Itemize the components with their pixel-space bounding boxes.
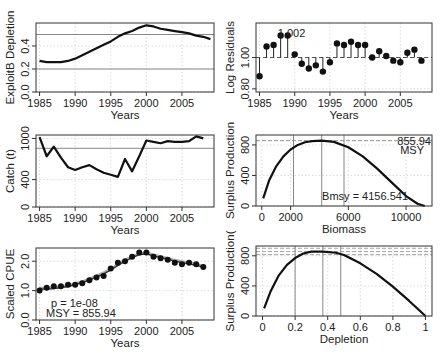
y-axis-label: Catch (t): [4, 149, 16, 193]
cpue-point: [172, 260, 178, 266]
y-tick-label: 800: [239, 247, 251, 265]
chart-canvas: 198519901995200020050.00.20.4YearsExploi…: [0, 0, 441, 355]
cpue-point: [51, 283, 57, 289]
x-tick-label: 1990: [63, 325, 87, 337]
residual-point: [362, 42, 368, 48]
x-tick-label: 1990: [63, 212, 87, 224]
plot-frame: [36, 135, 214, 207]
cpue-point: [94, 274, 100, 280]
x-tick-label: 2000: [353, 97, 377, 109]
cpue-point: [37, 288, 43, 294]
residual-point: [369, 54, 375, 60]
residual-point: [376, 48, 382, 54]
x-tick-label: 2005: [170, 97, 194, 109]
residual-point: [256, 73, 262, 79]
svg-text:Bmsy = 4156.541: Bmsy = 4156.541: [322, 190, 408, 202]
cpue-point: [86, 277, 92, 283]
surplus-vs-depletion-panel: 00.20.40.60.810400800DepletionSurplus Pr…: [224, 230, 432, 345]
y-axis-label: Log Residuals: [224, 21, 236, 94]
cpue-point: [44, 285, 50, 291]
x-tick-label: 0.4: [320, 321, 335, 333]
x-tick-label: 1995: [99, 212, 123, 224]
cpue-point: [129, 254, 135, 260]
x-tick-label: 0.6: [353, 321, 368, 333]
x-tick-label: 2000: [134, 212, 158, 224]
cpue-point: [200, 264, 206, 270]
x-axis-label: Depletion: [320, 333, 369, 345]
residual-point: [263, 43, 269, 49]
residual-point: [306, 65, 312, 71]
residual-point: [313, 62, 319, 68]
x-axis-label: Biomass: [322, 223, 366, 235]
y-tick-label: 2.0: [19, 254, 31, 269]
x-tick-label: 2000: [134, 97, 158, 109]
x-tick-label: 1990: [63, 97, 87, 109]
y-axis-label: Surplus Production(: [224, 230, 236, 331]
log-residuals-panel: 198519901995200020050.801.00YearsLog Res…: [224, 21, 432, 121]
cpue-point: [186, 260, 192, 266]
cpue-point: [65, 282, 71, 288]
x-tick-label: 2005: [170, 212, 194, 224]
cpue-point: [101, 273, 107, 279]
scaled-cpue-panel: 198519901995200020050.01.02.0YearsScaled…: [4, 248, 214, 349]
residual-point: [383, 53, 389, 59]
residual-point: [327, 59, 333, 65]
y-tick-label: 0: [19, 204, 31, 210]
cpue-point: [193, 261, 199, 267]
residual-point: [270, 42, 276, 48]
x-tick-label: 1995: [318, 97, 342, 109]
surplus-vs-biomass-panel: 020006000100000400800BiomassSurplus Prod…: [224, 122, 432, 235]
cpue-point: [143, 249, 149, 255]
data-line: [40, 136, 204, 176]
cpue-point: [122, 258, 128, 264]
residual-point: [397, 59, 403, 65]
data-line: [264, 252, 425, 316]
residual-point: [404, 50, 410, 56]
y-tick-label: 1.0: [19, 283, 31, 298]
plot-frame: [256, 246, 432, 316]
y-tick-label: 1000: [19, 126, 31, 150]
x-tick-label: 1995: [99, 325, 123, 337]
x-tick-label: 0.2: [287, 321, 302, 333]
y-tick-label: 0.4: [19, 38, 31, 53]
x-axis-label: Years: [330, 109, 359, 121]
y-tick-label: 0.0: [19, 312, 31, 327]
cpue-point: [150, 254, 156, 260]
x-tick-label: 2000: [278, 211, 302, 223]
cpue-point: [115, 260, 121, 266]
exploitable-depletion-panel: 198519901995200020050.00.20.4YearsExploi…: [4, 11, 214, 121]
x-tick-label: 0: [259, 211, 265, 223]
y-tick-label: 1.00: [239, 47, 251, 68]
x-tick-label: 6000: [336, 211, 360, 223]
residual-point: [390, 57, 396, 63]
y-tick-label: 0.0: [19, 84, 31, 99]
x-tick-label: 0.8: [385, 321, 400, 333]
y-axis-label: Surplus Production: [224, 122, 236, 219]
cpue-point: [136, 249, 142, 255]
data-line: [40, 25, 211, 62]
x-axis-label: Years: [111, 224, 140, 236]
y-tick-label: 0.80: [239, 78, 251, 99]
x-tick-label: 0: [259, 321, 265, 333]
residual-point: [348, 39, 354, 45]
cpue-point: [165, 257, 171, 263]
x-axis-label: Years: [111, 337, 140, 349]
svg-text:MSY: MSY: [400, 144, 425, 156]
residual-point: [355, 42, 361, 48]
x-tick-label: 2005: [388, 97, 412, 109]
x-axis-label: Years: [111, 109, 140, 121]
residual-point: [320, 68, 326, 74]
x-tick-label: 1990: [282, 97, 306, 109]
cpue-point: [79, 280, 85, 286]
x-tick-label: 1985: [27, 212, 51, 224]
residual-point: [334, 40, 340, 46]
residual-point: [341, 42, 347, 48]
x-tick-label: 1995: [99, 97, 123, 109]
x-tick-label: 10000: [391, 211, 422, 223]
residual-point: [292, 51, 298, 57]
y-tick-label: 400: [19, 170, 31, 188]
catch-panel: 1985199019952000200504001000YearsCatch (…: [4, 126, 214, 236]
y-tick-label: 0.2: [19, 61, 31, 76]
x-tick-label: 1: [422, 321, 428, 333]
cpue-point: [58, 283, 64, 289]
